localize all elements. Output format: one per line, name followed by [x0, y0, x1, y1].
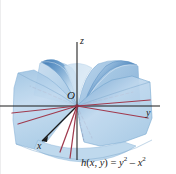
y-axis-label: y — [146, 108, 150, 118]
equation-minus: – — [127, 157, 138, 168]
saddle-point-marker — [75, 104, 79, 108]
equation-caption: h(x, y) = y2 – x2 — [81, 156, 146, 168]
z-axis-label: z — [80, 36, 84, 46]
saddle-surface-figure: z y x O h(x, y) = y2 – x2 — [0, 0, 176, 174]
x-axis-label: x — [37, 141, 41, 151]
origin-label: O — [67, 90, 75, 101]
equation-term2-exponent: 2 — [142, 155, 146, 163]
surface-plot-canvas — [0, 0, 176, 174]
equation-equals: = — [108, 157, 119, 168]
